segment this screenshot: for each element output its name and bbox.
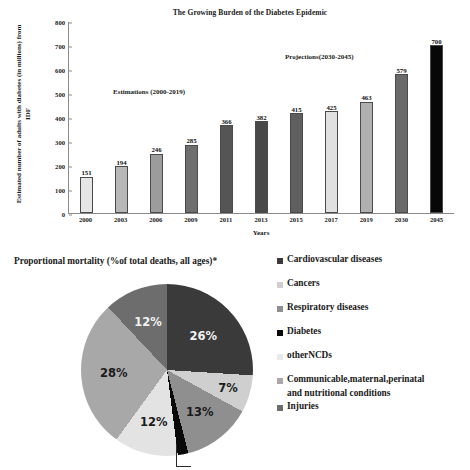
pie-chart-legend: Cardiovascular diseasesCancersRespirator…	[277, 254, 467, 425]
x-axis-tick: 2009	[173, 216, 208, 230]
y-axis-tick: 800	[55, 19, 69, 26]
legend-swatch	[277, 306, 283, 312]
bar-cell: 285	[174, 22, 209, 213]
y-axis-tick: 400	[55, 115, 69, 122]
pie-slice-label: 12%	[140, 415, 168, 429]
x-axis-tick: 2019	[349, 216, 384, 230]
x-axis-tick: 2000	[68, 216, 103, 230]
y-axis-tick: 500	[55, 91, 69, 98]
bar: 425	[325, 111, 338, 213]
legend-swatch	[277, 330, 283, 336]
bar-cell: 366	[209, 22, 244, 213]
legend-label: Respiratory diseases	[287, 302, 368, 314]
y-axis-tick: 300	[55, 139, 69, 146]
pie-slice-label: 12%	[134, 315, 162, 329]
legend-item[interactable]: Communicable,maternal,perinatal	[277, 374, 467, 386]
pie-chart-plot-area: 2% 26%7%13%12%28%12%	[78, 284, 264, 456]
legend-swatch	[277, 378, 283, 384]
bar-chart-x-axis: 2000200320062009201120132015201720192030…	[68, 216, 454, 230]
bar: 700	[430, 45, 443, 213]
x-axis-tick: 2006	[138, 216, 173, 230]
bar-value-label: 151	[81, 169, 91, 176]
bar-value-label: 382	[256, 114, 266, 121]
bar: 194	[115, 166, 128, 213]
bar-value-label: 285	[186, 137, 196, 144]
y-axis-tick: 200	[55, 163, 69, 170]
bar-cell: 425	[314, 22, 349, 213]
y-axis-tick: 600	[55, 67, 69, 74]
pie-chart: Proportional mortality (%of total deaths…	[0, 252, 470, 470]
pie-chart-title: Proportional mortality (%of total deaths…	[14, 256, 217, 266]
x-axis-tick: 2011	[208, 216, 243, 230]
x-axis-tick: 2045	[419, 216, 454, 230]
pie-slice-label: 26%	[190, 329, 218, 343]
bar-value-label: 415	[291, 106, 301, 113]
x-axis-tick: 2003	[103, 216, 138, 230]
bar-cell: 246	[139, 22, 174, 213]
bar-chart-y-axis-title: Estimated number of adults with diabetes…	[15, 24, 33, 204]
figure-container: The Growing Burden of the Diabetes Epide…	[0, 0, 470, 470]
legend-label: and nutritional conditions	[287, 388, 390, 400]
legend-item[interactable]: Respiratory diseases	[277, 302, 467, 314]
bar-cell: 415	[279, 22, 314, 213]
bar-value-label: 579	[396, 67, 406, 74]
bar-cell: 382	[244, 22, 279, 213]
bar-cell: 579	[384, 22, 419, 213]
bar: 366	[220, 125, 233, 213]
bar-value-label: 366	[221, 118, 231, 125]
bar-cell: 700	[419, 22, 454, 213]
legend-label: Injuries	[287, 401, 319, 413]
bar: 463	[360, 102, 373, 213]
bar-cell: 194	[104, 22, 139, 213]
footnote-cropped	[10, 457, 310, 467]
legend-swatch	[277, 354, 283, 360]
legend-item[interactable]: Cardiovascular diseases	[277, 254, 467, 266]
x-axis-tick: 2030	[384, 216, 419, 230]
bar: 382	[255, 121, 268, 213]
y-axis-tick: 100	[55, 187, 69, 194]
legend-swatch	[277, 405, 283, 411]
pie-slice-label: 13%	[186, 405, 214, 419]
bar-value-label: 246	[151, 146, 161, 153]
bar: 151	[80, 177, 93, 213]
x-axis-tick: 2015	[279, 216, 314, 230]
x-axis-tick: 2017	[314, 216, 349, 230]
bar-chart-title: The Growing Burden of the Diabetes Epide…	[120, 8, 380, 17]
pie-slice-label: 7%	[218, 381, 238, 395]
legend-label: Diabetes	[287, 326, 321, 338]
legend-label: Communicable,maternal,perinatal	[287, 374, 424, 386]
legend-label: Cancers	[287, 278, 320, 290]
bar-cell: 463	[349, 22, 384, 213]
legend-label: otherNCDs	[287, 350, 332, 362]
bar-cell: 151	[69, 22, 104, 213]
legend-item[interactable]: and nutritional conditions	[277, 388, 467, 400]
bar: 246	[150, 154, 163, 213]
legend-item[interactable]: Injuries	[277, 401, 467, 413]
bar-value-label: 194	[116, 159, 126, 166]
bar-value-label: 463	[361, 94, 371, 101]
bar-chart: The Growing Burden of the Diabetes Epide…	[0, 0, 470, 250]
legend-item[interactable]: otherNCDs	[277, 350, 467, 362]
y-axis-tick: 700	[55, 43, 69, 50]
bar-chart-x-axis-title: Years	[68, 229, 454, 237]
legend-label: Cardiovascular diseases	[287, 254, 382, 266]
legend-item[interactable]: Cancers	[277, 278, 467, 290]
bar-chart-plot-area: 0100200300400500600700800 15119424628536…	[68, 22, 454, 214]
bar-value-label: 425	[326, 104, 336, 111]
bar: 285	[185, 145, 198, 213]
bar-value-label: 700	[431, 38, 441, 45]
legend-item[interactable]: Diabetes	[277, 326, 467, 338]
bar: 579	[395, 74, 408, 213]
x-axis-tick: 2013	[243, 216, 278, 230]
pie-slice-label: 28%	[100, 366, 128, 380]
legend-swatch	[277, 391, 283, 397]
legend-swatch	[277, 258, 283, 264]
bar: 415	[290, 113, 303, 213]
bar-series: 151194246285366382415425463579700	[69, 22, 454, 213]
legend-swatch	[277, 282, 283, 288]
